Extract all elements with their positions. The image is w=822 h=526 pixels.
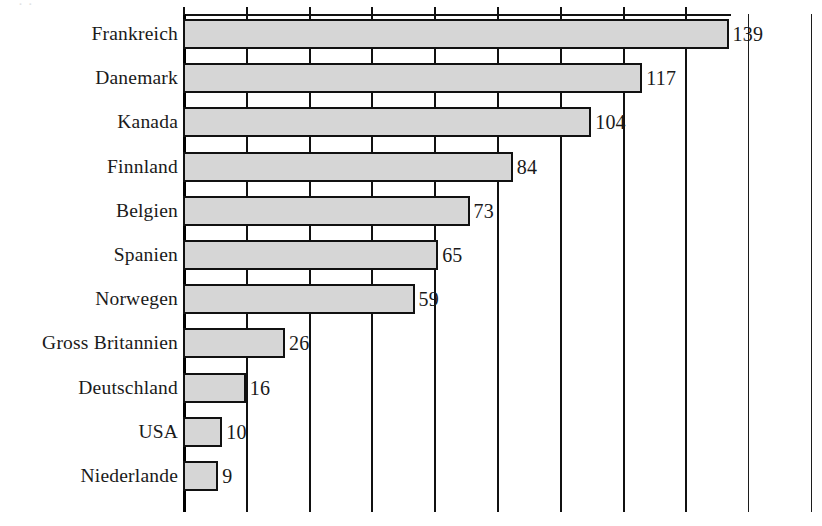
category-label: Belgien [116,194,178,228]
category-label: Gross Britannien [42,326,178,360]
category-label: Norwegen [95,282,178,316]
bar-value-label: 104 [592,105,626,139]
bar-row: Danemark117 [0,61,822,95]
category-label: Danemark [95,61,178,95]
bar-row: Norwegen59 [0,282,822,316]
category-label: Spanien [114,238,178,272]
bar [183,107,591,137]
bar [183,63,642,93]
bar-row: Frankreich139 [0,17,822,51]
bar-value-label: 10 [223,415,246,449]
bar-value-label: 9 [219,459,232,493]
bar [183,19,729,49]
bar-row: Kanada104 [0,105,822,139]
category-label: Niederlande [81,459,178,493]
bar-value-label: 65 [439,238,462,272]
bar-row: Gross Britannien26 [0,326,822,360]
bar [183,373,246,403]
bar-value-label: 26 [286,326,309,360]
category-label: Kanada [117,105,178,139]
bar [183,417,222,447]
bar-rows-group: Frankreich139Danemark117Kanada104Finnlan… [0,0,822,526]
bar-value-label: 84 [514,150,537,184]
bar [183,152,513,182]
bar [183,240,438,270]
bar-row: Deutschland16 [0,371,822,405]
bar-row: Niederlande9 [0,459,822,493]
bar-value-label: 59 [416,282,439,316]
bar-row: Belgien73 [0,194,822,228]
category-label: USA [138,415,178,449]
bar [183,461,218,491]
bar [183,196,470,226]
bar-chart: · · Frankreich139Danemark117Kanada104Fin… [0,0,822,526]
bar-value-label: 117 [643,61,676,95]
bar [183,284,415,314]
bar-row: USA10 [0,415,822,449]
bar-row: Spanien65 [0,238,822,272]
bar [183,328,285,358]
category-label: Finnland [107,150,178,184]
category-label: Frankreich [92,17,178,51]
bar-row: Finnland84 [0,150,822,184]
bar-value-label: 73 [471,194,494,228]
category-label: Deutschland [78,371,178,405]
bar-value-label: 16 [247,371,270,405]
bar-value-label: 139 [730,17,764,51]
